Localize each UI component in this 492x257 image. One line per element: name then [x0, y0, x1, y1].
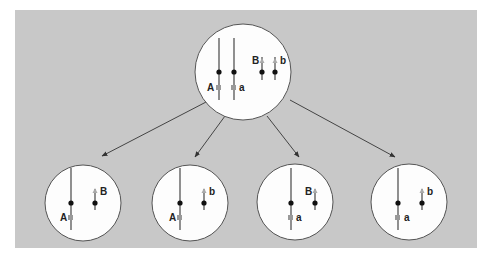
- label-B: B: [252, 55, 259, 66]
- segregation-diagram: A a B b A B A b: [0, 0, 492, 257]
- parent-cell: A a B b: [195, 24, 291, 120]
- arrow-4: [290, 100, 395, 157]
- svg-text:a: a: [296, 212, 302, 223]
- label-a: a: [239, 82, 245, 93]
- arrow-3: [267, 116, 299, 157]
- svg-text:A: A: [169, 212, 176, 223]
- svg-text:A: A: [60, 212, 67, 223]
- svg-text:b: b: [209, 186, 215, 197]
- svg-text:B: B: [100, 186, 107, 197]
- svg-text:b: b: [427, 186, 433, 197]
- label-A: A: [207, 82, 214, 93]
- svg-text:a: a: [404, 212, 410, 223]
- daughter-cell-4: a b: [371, 164, 447, 240]
- label-b: b: [280, 55, 286, 66]
- daughter-cell-1: A B: [45, 165, 121, 241]
- arrow-2: [195, 116, 225, 157]
- svg-text:B: B: [305, 186, 312, 197]
- daughter-cell-2: A b: [152, 165, 228, 241]
- arrow-1: [102, 101, 208, 156]
- daughter-cell-3: a B: [257, 164, 333, 240]
